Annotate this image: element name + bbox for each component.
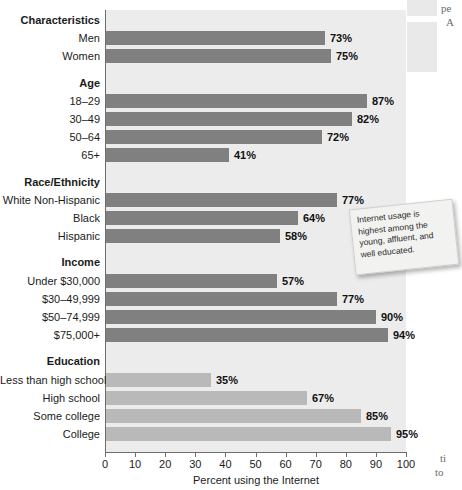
bar[interactable] — [106, 193, 337, 207]
bar-row[interactable]: 50–6472% — [0, 129, 462, 145]
x-axis-tick-label: 80 — [340, 458, 352, 470]
bar-value-label: 95% — [396, 426, 418, 442]
group-heading-label: Age — [0, 75, 100, 91]
bar-row-label: Some college — [0, 408, 100, 424]
bar-row-label: White Non-Hispanic — [0, 192, 100, 208]
group-heading-age: Age — [0, 75, 462, 91]
margin-text-bottom-2: to — [435, 466, 444, 478]
bar-value-label: 87% — [372, 93, 394, 109]
group-heading-label: Characteristics — [0, 12, 100, 28]
bar-row-label: 65+ — [0, 147, 100, 163]
bar-value-label: 85% — [366, 408, 388, 424]
x-axis-tick-label: 90 — [370, 458, 382, 470]
x-axis-tick — [286, 452, 287, 457]
bar[interactable] — [106, 328, 388, 342]
bar-row[interactable]: $30–49,99977% — [0, 291, 462, 307]
bar-row[interactable]: Women75% — [0, 48, 462, 64]
bar-row-label: Less than high school — [0, 372, 100, 388]
bar-row-label: $50–74,999 — [0, 309, 100, 325]
bar-row-label: High school — [0, 390, 100, 406]
x-axis-tick-label: 20 — [159, 458, 171, 470]
bar-value-label: 94% — [393, 327, 415, 343]
group-heading-race-ethnicity: Race/Ethnicity — [0, 174, 462, 190]
bar[interactable] — [106, 211, 298, 225]
bar-row[interactable]: 18–2987% — [0, 93, 462, 109]
bar-row[interactable]: Less than high school35% — [0, 372, 462, 388]
margin-text-bottom-1: ti — [440, 452, 446, 464]
margin-text-top-1: pe — [441, 2, 451, 14]
bar-row-label: Under $30,000 — [0, 273, 100, 289]
bar[interactable] — [106, 112, 352, 126]
bar[interactable] — [106, 130, 322, 144]
bar-row-label: Hispanic — [0, 228, 100, 244]
bar-row[interactable]: $50–74,99990% — [0, 309, 462, 325]
bar[interactable] — [106, 94, 367, 108]
x-axis-tick-label: 30 — [189, 458, 201, 470]
bar-row-label: 18–29 — [0, 93, 100, 109]
bar-row[interactable]: 30–4982% — [0, 111, 462, 127]
bar-value-label: 72% — [327, 129, 349, 145]
bar[interactable] — [106, 427, 391, 441]
bar-value-label: 73% — [330, 30, 352, 46]
bar-row[interactable]: Some college85% — [0, 408, 462, 424]
margin-text-top-2: A — [446, 16, 454, 28]
bar-row[interactable]: Under $30,00057% — [0, 273, 462, 289]
bar-value-label: 58% — [285, 228, 307, 244]
bar[interactable] — [106, 31, 325, 45]
bar-row-label: Women — [0, 48, 100, 64]
bar-row[interactable]: College95% — [0, 426, 462, 442]
group-heading-label: Race/Ethnicity — [0, 174, 100, 190]
x-axis-tick — [165, 452, 166, 457]
bar-row-label: 30–49 — [0, 111, 100, 127]
x-axis-tick — [135, 452, 136, 457]
x-axis-tick — [406, 452, 407, 457]
bar-row[interactable]: Men73% — [0, 30, 462, 46]
bar[interactable] — [106, 292, 337, 306]
bar-row[interactable]: $75,000+94% — [0, 327, 462, 343]
callout-note: Internet usage is highest among the youn… — [349, 199, 459, 276]
bar-row[interactable]: 65+41% — [0, 147, 462, 163]
x-axis-tick-label: 0 — [102, 458, 108, 470]
margin-bleed-block-top — [407, 0, 437, 16]
bar-value-label: 35% — [216, 372, 238, 388]
bar-value-label: 41% — [234, 147, 256, 163]
bar-row-label: Black — [0, 210, 100, 226]
bar-row-label: $75,000+ — [0, 327, 100, 343]
bar[interactable] — [106, 229, 280, 243]
x-axis-tick — [376, 452, 377, 457]
bar-value-label: 75% — [336, 48, 358, 64]
bar[interactable] — [106, 49, 331, 63]
x-axis-tick-label: 60 — [279, 458, 291, 470]
bar-value-label: 77% — [342, 192, 364, 208]
x-axis-tick — [256, 452, 257, 457]
x-axis-tick-label: 50 — [249, 458, 261, 470]
bar-row-label: 50–64 — [0, 129, 100, 145]
x-axis-tick — [195, 452, 196, 457]
x-axis-tick — [316, 452, 317, 457]
bar[interactable] — [106, 373, 211, 387]
bar[interactable] — [106, 409, 361, 423]
bar-value-label: 57% — [282, 273, 304, 289]
bar-value-label: 77% — [342, 291, 364, 307]
x-axis-tick — [346, 452, 347, 457]
group-heading-label: Income — [0, 254, 100, 270]
bar[interactable] — [106, 274, 277, 288]
x-axis-tick-label: 10 — [129, 458, 141, 470]
bar-row-label: Men — [0, 30, 100, 46]
bar-row[interactable]: High school67% — [0, 390, 462, 406]
chart-page: CharacteristicsMen73%Women75%Age18–2987%… — [0, 0, 462, 490]
bar[interactable] — [106, 148, 229, 162]
bar-value-label: 64% — [303, 210, 325, 226]
bar-row-label: $30–49,999 — [0, 291, 100, 307]
bar-value-label: 90% — [381, 309, 403, 325]
x-axis-tick-label: 70 — [310, 458, 322, 470]
bar-value-label: 67% — [312, 390, 334, 406]
group-heading-education: Education — [0, 353, 462, 369]
bar-row-label: College — [0, 426, 100, 442]
bar[interactable] — [106, 310, 376, 324]
bar-value-label: 82% — [357, 111, 379, 127]
bar[interactable] — [106, 391, 307, 405]
margin-bleed-block-top2 — [407, 22, 437, 72]
x-axis-tick — [225, 452, 226, 457]
x-axis-tick — [105, 452, 106, 457]
